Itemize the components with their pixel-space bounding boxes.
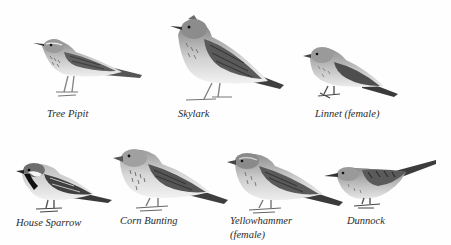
dunnock-illustration: [322, 158, 438, 210]
corn-bunting-label: Corn Bunting: [120, 214, 177, 227]
yellowhammer-female-label-line1: Yellowhammer: [230, 214, 292, 227]
tree-pipit-illustration: [30, 34, 145, 104]
house-sparrow-label: House Sparrow: [16, 216, 81, 229]
bird-identification-plate: Tree Pipit Skylark: [0, 0, 451, 245]
tree-pipit-label: Tree Pipit: [47, 107, 88, 120]
yellowhammer-female-label-line2: (female): [230, 228, 265, 241]
corn-bunting-illustration: [110, 146, 230, 214]
linnet-female-illustration: [300, 44, 400, 100]
house-sparrow-illustration: [14, 160, 114, 214]
skylark-illustration: [168, 15, 286, 103]
dunnock-label: Dunnock: [347, 214, 385, 227]
linnet-female-label: Linnet (female): [315, 107, 379, 120]
skylark-label: Skylark: [178, 107, 210, 120]
